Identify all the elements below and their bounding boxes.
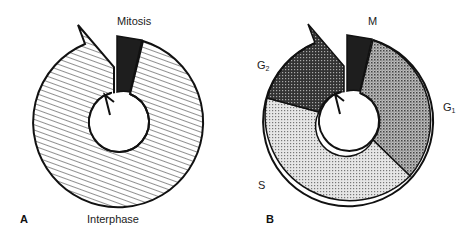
cell-cycle-diagram: [0, 0, 476, 243]
interphase-label: Interphase: [87, 214, 139, 225]
g1-label-main: G: [443, 101, 452, 113]
s-label: S: [258, 180, 265, 191]
panel-a-letter: A: [20, 214, 28, 225]
panel-b-letter: B: [266, 214, 274, 225]
g1-label-sub: 1: [452, 107, 456, 114]
panel-b-ring: [263, 24, 433, 206]
g2-label: G2: [257, 60, 269, 72]
g2-label-sub: 2: [266, 65, 270, 72]
g1-label: G1: [443, 102, 455, 114]
mitosis-label: Mitosis: [117, 16, 151, 27]
g2-label-main: G: [257, 59, 266, 71]
panel-a-ring: [33, 25, 203, 207]
m-label: M: [368, 16, 377, 27]
